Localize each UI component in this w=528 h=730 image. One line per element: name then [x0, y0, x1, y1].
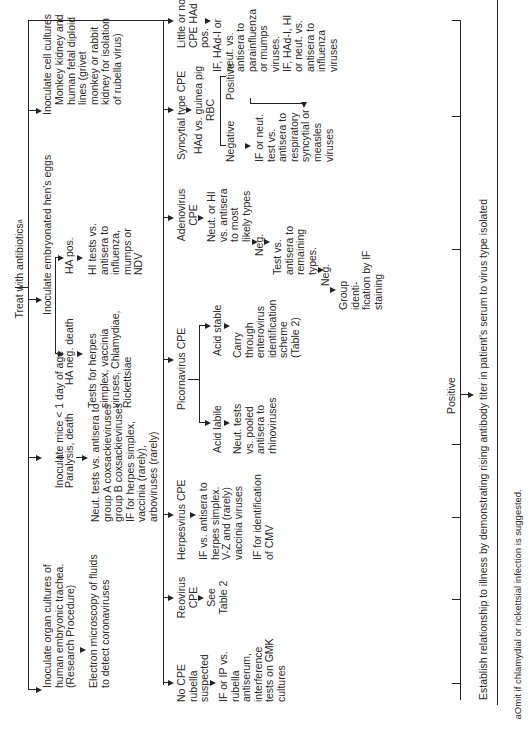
level1-branch-bar	[28, 110, 29, 690]
adeno-step1: Neut. or HI vs. antisera to most likely …	[206, 188, 252, 242]
arrow-icon	[330, 287, 336, 293]
mice-result: Neut. tests vs. antisera to group A coxs…	[90, 403, 160, 522]
acid-stable-result: Carry through enterovirus identification…	[232, 300, 302, 358]
arrow-icon	[210, 680, 216, 686]
arrow-icon	[77, 351, 83, 357]
arrow-icon	[264, 239, 270, 245]
eggs-bracket	[55, 257, 56, 354]
picornavirus-label: Picornavirus CPE	[176, 328, 188, 410]
arrow-icon	[80, 647, 86, 653]
bracket-tick	[452, 444, 460, 445]
arrow-icon	[468, 392, 474, 398]
ha-pos-label: HA pos.	[64, 237, 76, 274]
acid-labile-result: Neut. tests vs. pooled antisera to rhino…	[232, 397, 278, 454]
arrow-icon	[168, 680, 174, 686]
herpes-result2: IF for identification of CMV	[252, 474, 275, 560]
adeno-step3: Group identi- fication by IF staining	[338, 250, 384, 310]
arrow-icon	[168, 512, 174, 518]
bracket-tick	[452, 599, 460, 600]
arrow-icon	[224, 420, 230, 426]
cell-cultures-label: Inoculate cell cultures	[42, 14, 54, 115]
syncytial-label: Syncytial type CPE	[176, 71, 188, 160]
no-cpe-label: No CPE rubella suspected	[176, 654, 211, 702]
had-split-bar	[220, 76, 221, 146]
herpes-result1: IF vs. antisera to herpes simplex. V-Z a…	[198, 482, 244, 560]
herpesvirus-label: Herpesvirus CPE	[176, 479, 188, 560]
footnote-divider	[497, 0, 498, 705]
arrow-icon	[198, 595, 204, 601]
organ-cultures-label: Inoculate organ cultures of human embryo…	[42, 564, 77, 688]
acid-labile-label: Acid labile	[212, 405, 224, 453]
bottom-positive-label: Positive	[446, 377, 458, 414]
arrow-icon	[168, 18, 174, 24]
bottom-bracket-bar	[460, 20, 461, 700]
bracket-tick	[452, 517, 460, 518]
no-cpe-result: IF or IP vs. rubella antiserum, interfer…	[218, 638, 288, 702]
adenovirus-label: Adenovirus CPE	[176, 180, 199, 250]
arrow-icon	[245, 143, 251, 149]
adeno-step2: Test vs. antisera to remaining types.	[272, 226, 318, 275]
arrow-icon	[198, 215, 204, 221]
picorna-stem	[188, 379, 199, 380]
arrow-icon	[168, 215, 174, 221]
picorna-split-bar	[199, 325, 200, 423]
positive-hook-v	[250, 103, 304, 104]
bracket-tick	[452, 20, 460, 21]
ha-pos-result: HI tests vs. antisera to influenza, mump…	[87, 223, 145, 275]
cell-cultures-detail: Monkey kidney and human fetal diploid li…	[54, 15, 124, 105]
title-stem	[15, 287, 28, 288]
bracket-tick	[452, 249, 460, 250]
footnote-text: aOmit if chlamydial or rickettsial infec…	[500, 489, 528, 730]
arrow-icon	[168, 107, 174, 113]
reovirus-result: See Table 2	[206, 570, 229, 625]
establish-relationship-text: Establish relationship to illness by dem…	[478, 199, 490, 700]
little-cpe-label: Little or no CPE HAd pos.	[176, 0, 211, 48]
acid-stable-label: Acid stable	[212, 305, 224, 356]
arrow-icon	[168, 595, 174, 601]
syncytial-had: HAd vs. guinea pig RBC	[193, 60, 216, 160]
arrow-icon	[77, 255, 83, 261]
cells-to-level2	[28, 20, 163, 21]
arrow-icon	[301, 102, 307, 108]
arrow-icon	[190, 512, 196, 518]
arrow-icon	[82, 455, 88, 461]
adeno-neg2: Neg.	[320, 264, 332, 286]
organ-cultures-result: Electron microscopy of fluids to detect …	[88, 554, 111, 688]
negative-label: Negative	[225, 121, 237, 162]
eggs-label: Inoculate embryonated hen's eggs	[42, 155, 54, 315]
ha-neg-result: Tests for herpes simplex, vaccinia virus…	[87, 311, 133, 408]
title-treat-antibiotics: Treat with antibioticsa	[2, 219, 37, 330]
reovirus-label: Reovirus CPE	[176, 570, 199, 625]
negative-result: IF or neut. test vs. antisera to respira…	[254, 109, 335, 162]
level2-branch-bar	[163, 20, 164, 685]
paralysis-label: Paralysis, death	[64, 413, 76, 488]
top-to-cells	[28, 20, 29, 110]
arrow-icon	[224, 323, 230, 329]
bracket-tick	[452, 683, 460, 684]
arrow-icon	[168, 357, 174, 363]
positive-label: Positive	[225, 63, 237, 100]
bracket-tick	[452, 116, 460, 117]
